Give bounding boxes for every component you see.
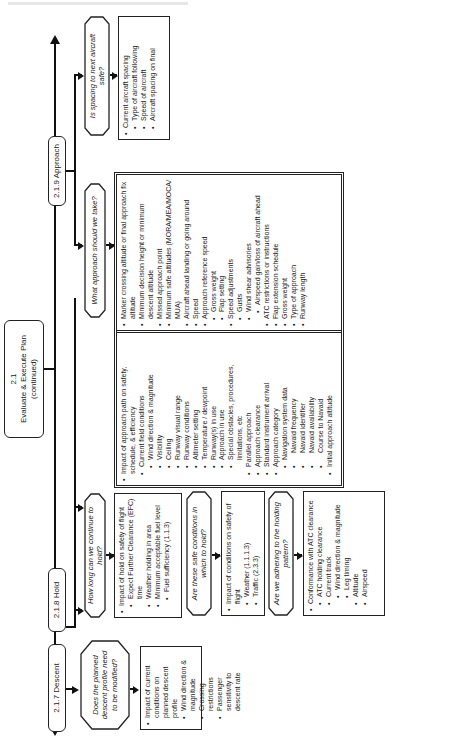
detail-item: Standard instrument arrival [263,337,272,481]
detail-item: Navaid availability [308,337,317,481]
hold-trunk-drop [66,627,75,629]
detail-item: Visibility [156,337,165,481]
detail-item: Wind direction & magnitude [334,496,343,611]
detail-item: Impact of conditions on safety of flight [225,496,243,611]
detail-item: Temperature / dewpoint [201,337,210,481]
detail-item: Altimeter setting [192,337,201,481]
details-hold-adhering: Conformance with ATC clearance ATC holdi… [303,491,385,616]
detail-item: Course to Navaid [317,337,326,481]
main-node-subtitle: (continued) [29,359,39,399]
detail-item: Impact of current conditions on planned … [144,651,180,725]
detail-item: Speed [192,179,201,326]
detail-item: Wind direction & magnitude [180,651,198,725]
branch-approach-label: 2.1.9 Approach [52,144,62,198]
detail-item: Fuel sufficiency (1.1.3) [163,498,172,613]
diagram-canvas: 2.1 Evaluate & Execute Plan (continued) … [0,0,452,736]
details-descent-list: Impact of current conditions on planned … [144,651,242,725]
detail-item: Runway conditions [183,337,192,481]
question-hold-conditions-text: Are these safe conditions in which to ho… [186,491,212,616]
details-descent: Impact of current conditions on planned … [140,646,202,730]
detail-item: Marker crossing altitude or final approa… [120,179,138,326]
detail-item: Wind direction & magnitude [147,337,156,481]
approach-trunk-drop [66,171,75,173]
detail-item: Leg timing [343,496,352,611]
main-node-title: Evaluate & Execute Plan [19,335,29,423]
detail-item: Navaid identifier [299,337,308,481]
detail-item: Expect Further Clearance (EFC) time [127,498,145,613]
detail-item: Airspeed [361,496,370,611]
details-approach-left-column: Impact of approach path on safety, sched… [117,330,341,485]
question-approach-spacing[interactable]: Is spacing to next aircraft safe? [84,16,110,136]
details-hold-continue-list: Impact of hold on safety of flight Expec… [118,498,172,613]
branch-descent[interactable]: 2.1.7 Descent [48,644,66,732]
main-node[interactable]: 2.1 Evaluate & Execute Plan (continued) [4,320,44,438]
detail-item: Impact of hold on safety of flight [118,498,127,613]
branch-hold-label: 2.1.8 Hold [52,582,62,618]
detail-item: Navaid frequency [290,337,299,481]
question-hold-adhering[interactable]: Are we adhering to the holding pattern? [268,491,294,616]
hold-trunk-line [74,298,76,628]
details-approach-which: Impact of approach path on safety, sched… [114,172,344,488]
details-approach-left-list: Impact of approach path on safety, sched… [120,337,335,481]
question-approach-which-text: What approach should we take? [84,183,106,318]
detail-item: Flap setting [218,179,227,326]
detail-item: ATC restrictions or instructions [263,179,272,326]
detail-item: Runway length [299,179,308,326]
descent-q-arrow-icon [133,686,139,694]
detail-item: Approach in use [218,337,227,481]
detail-item: Weather holding in area [145,498,154,613]
question-approach-which[interactable]: What approach should we take? [84,183,106,318]
details-approach-right-column: Marker crossing altitude or final approa… [117,175,341,330]
detail-item: Ceiling [165,337,174,481]
question-hold-continue-text: How long can we continue to hold? [84,493,106,618]
detail-item: Approach clearance [254,337,263,481]
detail-item: Traffic (2.3.3) [252,496,261,611]
detail-item: Aircraft spacing on final [149,21,158,135]
branch-hold[interactable]: 2.1.8 Hold [48,568,66,632]
details-hold-conditions-list: Impact of conditions on safety of flight… [225,496,261,611]
detail-item: Type of aircraft following [131,21,140,135]
detail-item: Initial approach altitude [326,337,335,481]
detail-item: Approach reference speed [201,179,210,326]
detail-item: Aircraft ahead landing or going around [183,179,192,326]
detail-item: Current field conditions [138,337,147,481]
details-hold-adhering-list: Conformance with ATC clearance ATC holdi… [307,496,370,611]
detail-item: Parallel approach [245,337,254,481]
detail-item: Passenger sensitivity to descent rate [216,651,243,725]
question-hold-adhering-text: Are we adhering to the holding pattern? [268,491,294,616]
detail-item: Gross weight [210,179,219,326]
question-descent-text: Does the planned descent profile need to… [80,640,130,730]
detail-item: Current aircraft spacing [122,21,131,135]
detail-item: Speed adjustments [227,179,236,326]
detail-item: Minimum safe altitudes (MORA/MEA/MOCA/ M… [165,179,183,326]
details-approach-spacing-list: Current aircraft spacing Type of aircraf… [122,21,158,135]
detail-item: Crossing restrictions [198,651,216,725]
detail-item: Conformance with ATC clearance [307,496,316,611]
details-hold-conditions: Impact of conditions on safety of flight… [221,491,265,616]
question-hold-continue[interactable]: How long can we continue to hold? [84,493,106,618]
detail-item: Speed of aircraft [140,21,149,135]
detail-item: Navigation system data [281,337,290,481]
question-descent[interactable]: Does the planned descent profile need to… [80,640,130,730]
details-approach-spacing: Current aircraft spacing Type of aircraf… [118,16,170,140]
detail-item: Approach category [272,337,281,481]
detail-item: ATC holding clearance [316,496,325,611]
detail-item: Current track [325,496,334,611]
branch-approach[interactable]: 2.1.9 Approach [48,136,66,206]
approach-trunk-line [74,76,76,246]
detail-item: Runway visual range [174,337,183,481]
detail-item: Minimum decision height or minimum desce… [138,179,156,326]
hold-q2-arrow-icon [78,504,84,512]
spine-arrow-right-icon [50,35,60,44]
detail-item: Altitude [352,496,361,611]
detail-item: Special obstacles, procedures, limitatio… [227,337,245,481]
detail-item: Gusts [236,179,245,326]
detail-item: Flap extension schedule [272,179,281,326]
detail-item: Missed approach point [156,179,165,326]
question-approach-spacing-text: Is spacing to next aircraft safe? [84,16,110,136]
branch-descent-label: 2.1.7 Descent [52,663,62,712]
detail-item: Weather (1.1.1.3) [243,496,252,611]
detail-item: Type of approach [290,179,299,326]
details-approach-right-list: Marker crossing altitude or final approa… [120,179,308,326]
question-hold-conditions-box[interactable]: Are these safe conditions in which to ho… [186,491,212,616]
